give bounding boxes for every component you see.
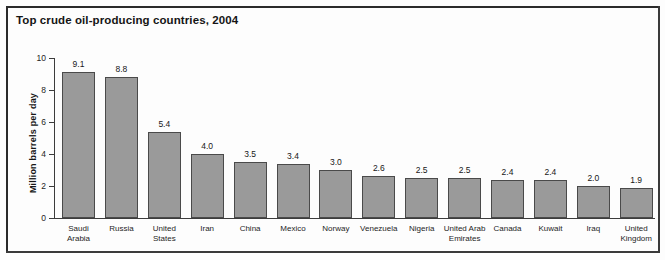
- x-axis-category-label: United States: [143, 224, 186, 243]
- y-axis-tick-mark: [49, 218, 54, 219]
- bar: [191, 154, 224, 218]
- bar: [105, 77, 138, 218]
- y-axis-line: [54, 58, 55, 219]
- bar-value-label: 3.4: [277, 152, 310, 161]
- x-axis-category-label: Canada: [486, 224, 529, 234]
- bar-value-label: 2.5: [448, 166, 481, 175]
- bar-value-label: 2.6: [362, 164, 395, 173]
- bar-value-label: 3.5: [234, 150, 267, 159]
- y-axis-tick-label: 8: [28, 86, 46, 95]
- x-axis-category-label: Russia: [100, 224, 143, 234]
- chart-figure: Top crude oil-producing countries, 2004 …: [0, 0, 665, 260]
- x-axis-category-label: Iraq: [572, 224, 615, 234]
- bar-value-label: 2.0: [577, 174, 610, 183]
- x-axis-category-label: China: [229, 224, 272, 234]
- bar: [62, 72, 95, 218]
- bar-value-label: 8.8: [105, 65, 138, 74]
- bar: [491, 180, 524, 218]
- x-axis-category-label: United Arab Emirates: [443, 224, 486, 243]
- y-axis-tick-label: 2: [28, 182, 46, 191]
- bar-value-label: 5.4: [148, 120, 181, 129]
- bar: [319, 170, 352, 218]
- bar-value-label: 2.4: [534, 168, 567, 177]
- x-axis-category-label: Kuwait: [529, 224, 572, 234]
- bar: [362, 176, 395, 218]
- x-axis-category-label: Norway: [314, 224, 357, 234]
- x-axis-line: [54, 218, 655, 219]
- bar: [577, 186, 610, 218]
- bar: [277, 164, 310, 218]
- bar-value-label: 2.4: [491, 168, 524, 177]
- y-axis-tick-mark: [49, 122, 54, 123]
- bar-value-label: 3.0: [319, 158, 352, 167]
- bar: [405, 178, 438, 218]
- y-axis-tick-mark: [49, 58, 54, 59]
- x-axis-category-label: United Kingdom: [615, 224, 658, 243]
- bar: [534, 180, 567, 218]
- y-axis-tick-mark: [49, 154, 54, 155]
- y-axis-tick-label: 4: [28, 150, 46, 159]
- bar-value-label: 2.5: [405, 166, 438, 175]
- plot-area: Million barrels per day 0246810 9.1Saudi…: [0, 0, 665, 260]
- bar: [148, 132, 181, 218]
- y-axis-tick-mark: [49, 90, 54, 91]
- bar-value-label: 9.1: [62, 60, 95, 69]
- x-axis-category-label: Saudi Arabia: [57, 224, 100, 243]
- bar: [234, 162, 267, 218]
- x-axis-category-label: Iran: [186, 224, 229, 234]
- y-axis-tick-label: 6: [28, 118, 46, 127]
- y-axis-tick-mark: [49, 186, 54, 187]
- bar: [448, 178, 481, 218]
- bar-value-label: 1.9: [620, 176, 653, 185]
- y-axis-tick-label: 0: [28, 214, 46, 223]
- x-axis-category-label: Nigeria: [400, 224, 443, 234]
- x-axis-category-label: Venezuela: [357, 224, 400, 234]
- x-axis-category-label: Mexico: [272, 224, 315, 234]
- bar-value-label: 4.0: [191, 142, 224, 151]
- bar: [620, 188, 653, 218]
- y-axis-tick-label: 10: [28, 54, 46, 63]
